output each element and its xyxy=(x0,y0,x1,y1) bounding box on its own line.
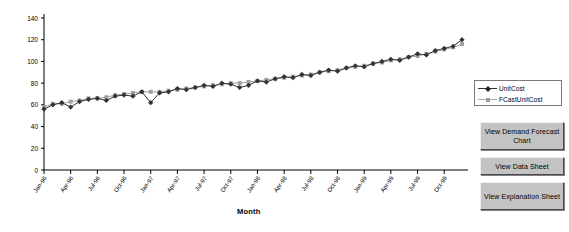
x-axis-tick-label: Apr-96 xyxy=(59,175,75,194)
legend-marker-square-icon xyxy=(478,95,497,104)
x-axis-tick-label: Apr-97 xyxy=(166,175,182,194)
data-point-marker xyxy=(69,100,73,104)
view-demand-forecast-chart-label: View Demand Forecast Chart xyxy=(481,127,563,145)
x-axis-tick-label: Jul-97 xyxy=(194,175,209,192)
y-axis-tick-label: 60 xyxy=(31,101,39,108)
x-axis-tick-label: Oct-98 xyxy=(326,175,342,194)
x-axis-tick-label: Jul-96 xyxy=(87,175,102,192)
x-axis-tick-label: Jul-98 xyxy=(300,175,315,192)
x-axis-tick-label: Jan-97 xyxy=(139,175,155,194)
y-axis-tick-label: 80 xyxy=(31,80,39,87)
y-axis-tick-label: 120 xyxy=(27,36,38,43)
x-axis-tick-label: Jan-96 xyxy=(32,175,48,194)
x-axis-tick-label: Jan-98 xyxy=(246,175,262,194)
x-axis-tick-label: Apr-98 xyxy=(273,175,289,194)
x-axis-tick-label: Oct-96 xyxy=(113,175,129,194)
chart-plot-svg: 020406080100120140Jan-96Apr-96Jul-96Oct-… xyxy=(0,0,470,232)
view-demand-forecast-chart-button[interactable]: View Demand Forecast Chart xyxy=(480,122,564,150)
legend-item-fcastunitcost: FCastUnitCost xyxy=(478,94,558,105)
x-axis-tick-label: Oct-99 xyxy=(433,175,449,194)
data-point-marker xyxy=(237,85,242,90)
x-axis-tick-label: Jul-99 xyxy=(407,175,422,192)
x-axis-tick-label: Apr-99 xyxy=(379,175,395,194)
legend-marker-diamond-icon xyxy=(478,84,497,93)
data-point-marker xyxy=(149,90,153,94)
y-axis-tick-label: 140 xyxy=(27,15,38,22)
view-explanation-sheet-label: View Explanation Sheet xyxy=(481,192,563,201)
data-point-marker xyxy=(460,42,464,46)
x-axis-tick-label: Jan-99 xyxy=(353,175,369,194)
legend-label-unitcost: UnitCost xyxy=(497,85,525,92)
y-axis-tick-label: 100 xyxy=(27,58,38,65)
data-point-marker xyxy=(238,81,242,85)
view-explanation-sheet-button[interactable]: View Explanation Sheet xyxy=(480,182,564,210)
chart-legend: UnitCost FCastUnitCost xyxy=(474,80,562,106)
view-data-sheet-label: View Data Sheet xyxy=(492,162,552,171)
data-point-marker xyxy=(68,104,73,109)
x-axis-title: Month xyxy=(237,207,261,216)
view-data-sheet-button[interactable]: View Data Sheet xyxy=(480,157,564,175)
y-axis-tick-label: 0 xyxy=(34,167,38,174)
y-axis-tick-label: 40 xyxy=(31,123,39,130)
legend-label-fcastunitcost: FCastUnitCost xyxy=(497,96,543,103)
legend-item-unitcost: UnitCost xyxy=(478,83,558,94)
demand-forecast-chart: 020406080100120140Jan-96Apr-96Jul-96Oct-… xyxy=(0,0,470,232)
x-axis-tick-label: Oct-97 xyxy=(219,175,235,194)
y-axis-tick-label: 20 xyxy=(31,145,39,152)
